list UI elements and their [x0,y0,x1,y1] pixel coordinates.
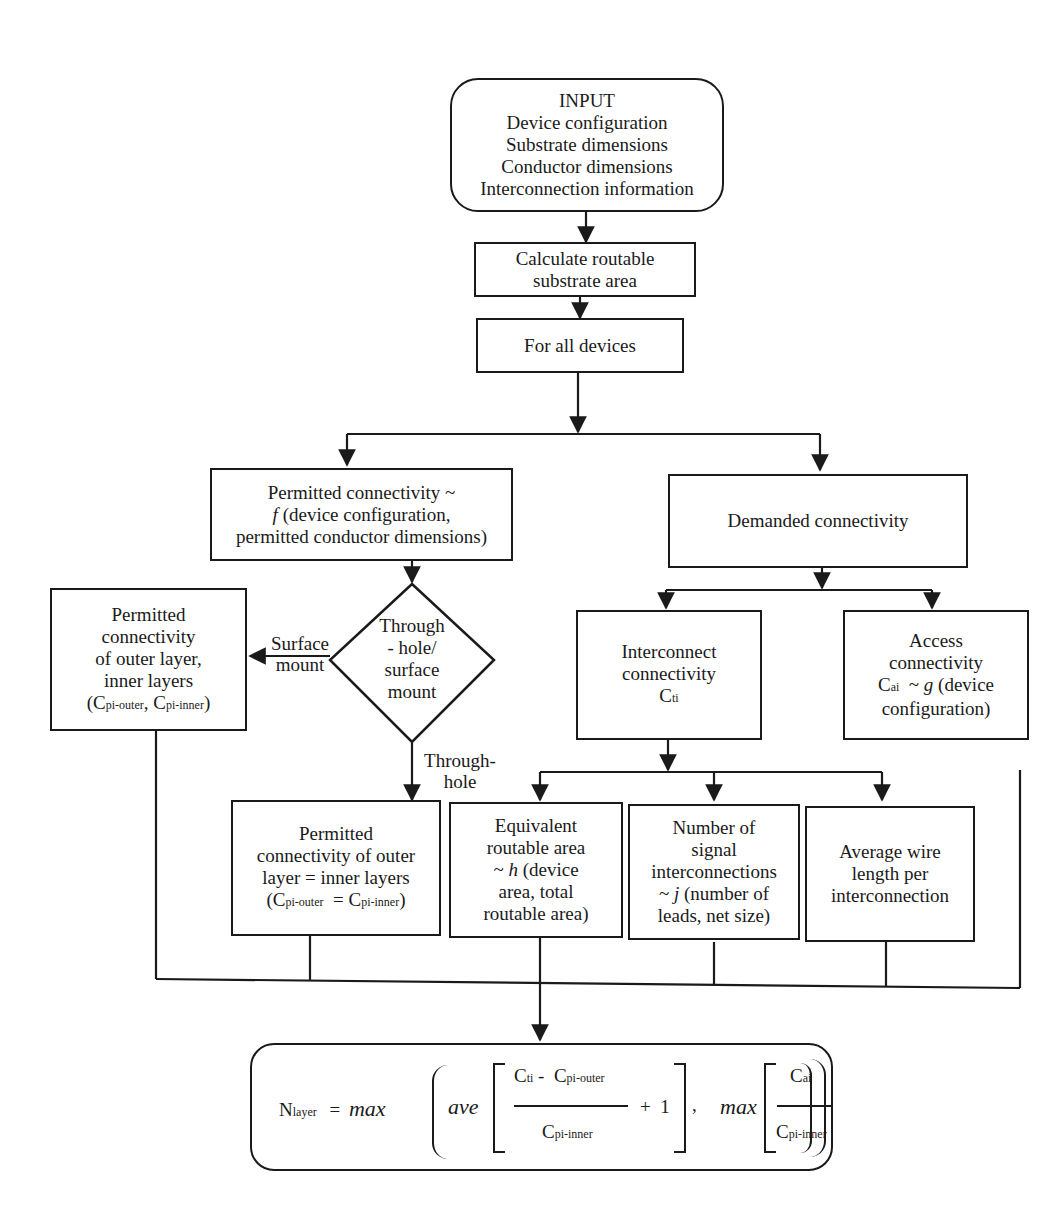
permitted-outer-inner-box: Permitted connectivity of outer layer, i… [50,588,247,731]
f-part: ) [399,889,405,910]
access-formula-line: Cai ~ g (device [878,674,994,698]
nlayer-lhs: Nlayer = max [279,1096,386,1122]
denominator-1: Cpi-inner [542,1121,593,1143]
f-sub: pi-outer [286,895,324,909]
number-signal-interconnections-box: Number of signal interconnections ~ j (n… [628,804,800,940]
comma-text: , [692,1094,697,1115]
sym: C [659,685,672,706]
right-bracket-1 [674,1063,686,1153]
permitted-line: Permitted connectivity ~ [268,482,456,504]
calc-line: substrate area [533,270,637,292]
left-bracket-2 [764,1063,776,1153]
box-line: Number of [673,817,756,839]
equals-sign: = [329,1099,340,1120]
sym-sub: ti [672,691,679,705]
num-sub2: pi-outer [567,1071,605,1085]
right-paren [810,1059,826,1157]
f-sub: pi-inner [361,895,399,909]
box-line: Interconnect [622,641,717,663]
box-formula: (Cpi-outer = Cpi-inner) [267,889,406,913]
sym: C [878,674,891,695]
permitted-connectivity-box: Permitted connectivity ~ f (device confi… [210,468,513,561]
f-part: , C [144,692,166,713]
box-line: configuration) [882,698,991,720]
box-line: layer = inner layers [262,867,409,889]
box-line: Permitted [299,823,373,845]
den-c: C [542,1121,555,1142]
edge-label-line: Through- [418,750,502,771]
for-all-label: For all devices [524,335,636,357]
box-line: Permitted [112,604,186,626]
den2-c: C [776,1121,789,1142]
box-line: connectivity [102,626,196,648]
calc-routable-area-box: Calculate routable substrate area [474,242,696,297]
average-wire-length-box: Average wire length per interconnection [805,806,975,942]
rest: (number of [679,883,769,904]
box-line: Average wire [839,841,940,863]
lhs-sub: layer [293,1105,317,1119]
box-line: length per [852,863,929,885]
f-part: (C [267,889,286,910]
lhs-n: N [279,1099,293,1120]
decision-line: mount [388,681,437,703]
box-line: leads, net size) [658,905,770,927]
box-line: interconnection [831,885,949,907]
permitted-line-rest: (device configuration, [278,504,451,525]
decision-line: Through [379,615,444,637]
demanded-connectivity-box: Demanded connectivity [668,474,968,568]
rest: (device [933,674,994,695]
max2-text: max [720,1094,757,1119]
box-line: connectivity [622,663,716,685]
left-paren [432,1065,448,1159]
decision-line: surface [385,659,440,681]
through-hole-surface-mount-decision: Through - hole/ surface mount [350,606,474,712]
max-operator-2: max [720,1094,757,1120]
box-line: ~ h (device [493,859,578,881]
box-line: area, total [499,881,574,903]
left-bracket-1 [493,1063,505,1153]
box-line: Access [909,630,963,652]
f-part: ) [204,692,210,713]
edge-label-line: Surface [264,633,336,654]
input-title: INPUT [559,90,615,112]
input-line: Interconnection information [480,178,694,200]
f-sub: pi-outer [106,698,144,712]
f-part: = C [324,889,362,910]
plus-one-text: + 1 [640,1096,670,1117]
permitted-outer-equals-inner-box: Permitted connectivity of outer layer = … [231,800,441,936]
den-sub: pi-inner [555,1127,593,1141]
right-paren-2 [800,1063,812,1153]
box-line: inner layers [104,670,193,692]
equivalent-routable-area-box: Equivalent routable area ~ h (device are… [449,802,623,938]
edge-label-line: hole [418,771,502,792]
box-line: connectivity of outer [257,845,415,867]
num-minus: - C [533,1065,566,1086]
edge-label-line: mount [264,654,336,675]
access-connectivity-box: Access connectivity Cai ~ g (device conf… [843,610,1029,740]
box-line: interconnections [651,861,777,883]
ave-operator: ave [448,1094,479,1120]
calc-line: Calculate routable [516,248,655,270]
fraction-bar-1 [514,1105,628,1107]
box-formula: (Cpi-outer, Cpi-inner) [87,692,211,716]
symbol-cti: Cti [659,685,678,709]
demanded-label: Demanded connectivity [728,510,909,532]
num-c: C [514,1065,527,1086]
numerator-1: Cti - Cpi-outer [514,1065,605,1087]
box-line: ~ j (number of [659,883,769,905]
comma: , [692,1094,697,1116]
tilde: ~ [493,859,508,880]
plus-one: + 1 [640,1096,670,1118]
tilde: ~ [899,674,924,695]
interconnect-connectivity-box: Interconnect connectivity Cti [576,610,762,740]
input-line: Conductor dimensions [501,156,673,178]
max-operator: max [349,1096,386,1121]
box-line: routable area) [484,903,589,925]
f-part: (C [87,692,106,713]
for-all-devices-box: For all devices [476,318,684,373]
box-line: routable area [487,837,586,859]
function-h: h [508,859,518,880]
edge-label-surface-mount: Surface mount [264,633,336,675]
ave-text: ave [448,1094,479,1119]
input-line: Device configuration [507,112,668,134]
